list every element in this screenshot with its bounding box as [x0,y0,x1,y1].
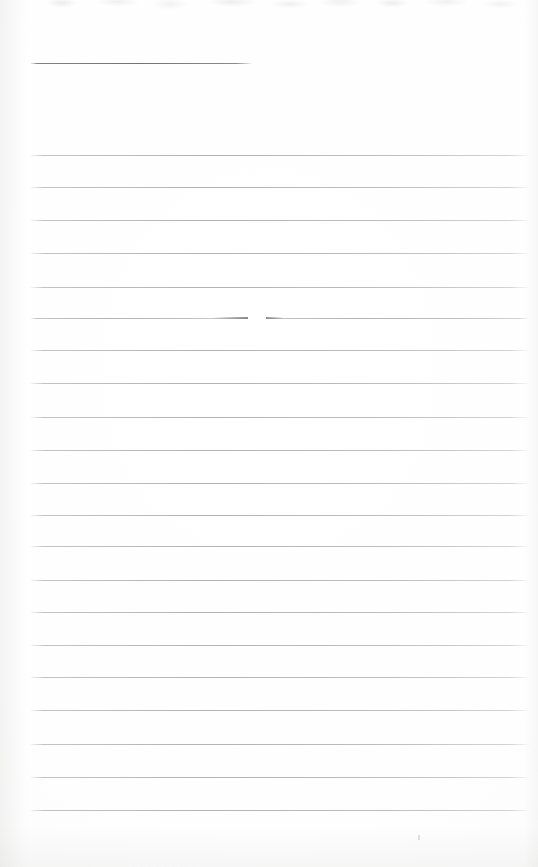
heading-rule [31,63,252,64]
ruled-line [31,612,529,613]
ruled-line [31,187,529,188]
ruled-line [31,744,529,745]
ruled-line [31,155,529,156]
ruled-line [31,287,529,288]
ruled-line [31,253,529,254]
ruled-line [31,677,529,678]
ruled-line [31,546,529,547]
scan-edge-shade-bottom [0,827,538,867]
ruled-line [31,645,529,646]
ruled-line [31,450,529,451]
ruled-line [31,515,529,516]
ruled-line [31,810,529,811]
scan-edge-noise-top [0,0,538,14]
ruled-line [31,777,529,778]
ruled-line [31,710,529,711]
ruled-line [31,580,529,581]
ruled-line [31,383,529,384]
scan-speck [418,835,420,840]
ruled-line-crease-tip [266,317,284,319]
scan-edge-shade-left [0,0,26,867]
ruled-line [31,483,529,484]
scanned-page [0,0,538,867]
paper-surface [0,0,538,867]
ruled-line [31,350,529,351]
ruled-line [31,417,529,418]
ruled-line [266,318,529,319]
ruled-line-crease-tip [212,317,248,319]
ruled-line [31,220,529,221]
scan-edge-shade-right [524,0,538,867]
